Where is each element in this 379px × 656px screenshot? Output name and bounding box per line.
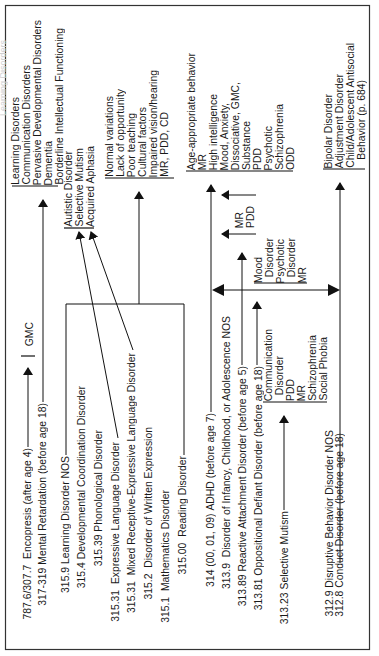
source-written-expression: 315.2 Disorder of Written Expression [143,427,154,600]
source-mathematics: 315.1 Mathematics Disorder [160,490,171,623]
target-learning-group: MR, PDD, CD Impaired vision/hearing Cult… [104,60,170,177]
target-gmc: GMC [24,322,35,346]
target-language-group: Acquired Aphasia Selective Mutism Autist… [63,130,96,227]
source-adhd: 314 (00, 01, 09) ADHD (before age 7) [205,413,216,587]
source-reading: 315.00 Reading Disorder [177,456,188,574]
target-attachment-group: PDD MR [234,200,256,228]
source-phonological: 315.39 Phonological Disorder [93,430,104,566]
source-learning-nos: 315.9 Learning Disorder NOS [60,456,71,593]
source-conduct: 312.8 Conduct Disorder (before age 18) [334,433,345,617]
target-mutism-group: Social Phobia Schizophrenia MR PDD Disor… [263,322,329,401]
target-mr-group: Borderline Intellectual Functioning Deme… [10,4,65,185]
source-infancy-nos: 313.9 Disorder of Infancy, Childhood, or… [221,316,232,589]
source-selective-mutism: 313.23 Selective Mutism [279,511,290,624]
source-developmental-coordination: 315.4 Developmental Coordination Disorde… [76,386,87,588]
source-mental-retardation: 317-319 Mental Retardation (before age 1… [37,403,48,606]
source-oppositional-defiant: 313.81 Oppositional Defiant Disorder (be… [253,366,264,610]
source-mixed-receptive-expressive: 315.31 Mixed Receptive-Expressive Langua… [126,353,137,613]
ghost-text: Learning Disorders [0,40,8,116]
target-odd-group: MR Disorder Psychotic Disorder Mood [253,228,308,283]
source-encopresis: 787.6/307.7 Encopresis (after age 4) [22,448,33,620]
source-reactive-attachment: 313.89 Reactive Attachment Disorder (bef… [237,366,248,606]
target-adhd-group: ODD Schizophrenia Psychotic PDD Substanc… [186,40,296,170]
target-conduct-group: Behavior (p. 684) Child/Adolescent Antis… [323,30,367,168]
differential-diagnosis-diagram: Learning Disorders 787.6/307.7 Encopresi… [0,0,379,656]
source-expressive-language: 315.31 Expressive Language Disorder [110,442,121,622]
